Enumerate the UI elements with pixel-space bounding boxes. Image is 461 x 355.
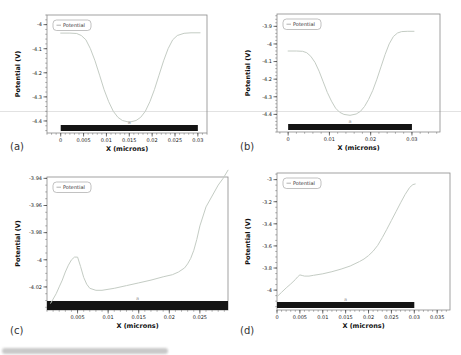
y-tick-label: -4.2	[32, 70, 42, 76]
electrode-bar	[277, 302, 414, 308]
chart-panel-b: 00.010.020.03-3.9-4-4.1-4.2-4.3-4.4aPote…	[230, 0, 461, 160]
electrode-bar	[61, 125, 198, 131]
y-tick-label: -4.2	[262, 76, 272, 82]
legend-label: Potential	[63, 22, 85, 28]
y-tick-label: -3.9	[262, 23, 272, 29]
x-axis-title: X (microns)	[106, 145, 148, 153]
y-tick-label: -4.3	[262, 94, 272, 100]
y-tick-label: -4.1	[262, 58, 272, 64]
x-tick-label: 0.005	[70, 314, 84, 320]
x-tick-label: 0.015	[338, 314, 352, 320]
y-tick-label: -4.02	[29, 284, 42, 290]
region-marker-label: a	[349, 118, 352, 124]
y-axis-title: Potential (V)	[244, 50, 252, 97]
chart-a-plot: 00.0050.010.0150.020.0250.03-4-4.1-4.2-4…	[0, 0, 230, 160]
legend: Potential	[283, 19, 321, 30]
x-tick-label: 0	[275, 314, 278, 320]
chart-d-plot: 00.0050.010.0150.020.0250.030.035-3-3.2-…	[230, 160, 461, 345]
x-tick-label: 0.02	[363, 314, 374, 320]
x-tick-label: 0	[287, 136, 290, 142]
potential-curve	[288, 31, 414, 115]
y-tick-label: -3.94	[29, 175, 42, 181]
x-tick-label: 0.03	[192, 137, 203, 143]
region-marker-label: a	[136, 295, 139, 301]
legend: Potential	[53, 182, 91, 193]
x-tick-label: 0.01	[317, 314, 328, 320]
panel-label-a: (a)	[10, 141, 24, 152]
region-marker-label: a	[128, 119, 131, 125]
x-tick-label: 0.035	[430, 314, 444, 320]
electrode-bar	[47, 301, 228, 310]
chart-panel-c: 0.0050.010.0150.020.025-3.94-3.96-3.98-4…	[0, 160, 230, 345]
x-tick-label: 0.02	[164, 314, 175, 320]
y-tick-label: -4	[37, 257, 42, 263]
x-axis-title: X (microns)	[342, 322, 384, 330]
y-axis-title: Potential (V)	[244, 218, 252, 265]
y-tick-label: -4.3	[32, 94, 42, 100]
legend: Potential	[283, 178, 321, 189]
potential-curve	[61, 33, 200, 122]
y-tick-label: -3.8	[262, 265, 272, 271]
legend-label: Potential	[293, 21, 315, 27]
plot-border	[277, 173, 450, 310]
y-axis-title: Potential (V)	[14, 220, 22, 267]
chart-panel-a: 00.0050.010.0150.020.0250.03-4-4.1-4.2-4…	[0, 0, 230, 160]
x-tick-label: 0.025	[384, 314, 398, 320]
x-tick-label: 0.01	[101, 137, 112, 143]
x-tick-label: 0.005	[76, 137, 90, 143]
y-tick-label: -4	[37, 21, 42, 27]
y-axis-title: Potential (V)	[14, 51, 22, 98]
panel-label-c: (c)	[10, 325, 23, 336]
cropped-caption-artifact	[2, 348, 168, 354]
x-tick-label: 0.02	[365, 136, 376, 142]
x-tick-label: 0	[59, 137, 62, 143]
y-tick-label: -3.96	[29, 202, 42, 208]
y-tick-label: -4	[267, 41, 272, 47]
x-tick-label: 0.03	[406, 136, 417, 142]
x-tick-label: 0.015	[132, 314, 146, 320]
x-tick-label: 0.01	[103, 314, 114, 320]
figure-four-potential-plots: 00.0050.010.0150.020.0250.03-4-4.1-4.2-4…	[0, 0, 461, 355]
legend: Potential	[53, 20, 91, 31]
x-axis-title: X (microns)	[337, 144, 379, 152]
y-tick-label: -3.98	[29, 229, 42, 235]
legend-label: Potential	[63, 184, 85, 190]
chart-c-plot: 0.0050.010.0150.020.025-3.94-3.96-3.98-4…	[0, 160, 230, 345]
y-tick-label: -3.6	[262, 243, 272, 249]
x-tick-label: 0.015	[122, 137, 136, 143]
y-tick-label: -4	[267, 287, 272, 293]
x-tick-label: 0.03	[409, 314, 420, 320]
plot-border	[277, 14, 440, 132]
legend-label: Potential	[293, 180, 315, 186]
potential-curve	[277, 184, 415, 297]
y-tick-label: -4.4	[262, 111, 272, 117]
region-marker-label: a	[344, 296, 347, 302]
x-tick-label: 0.01	[324, 136, 335, 142]
x-tick-label: 0.025	[168, 137, 182, 143]
y-tick-label: -4.1	[32, 46, 42, 52]
chart-panel-d: 00.0050.010.0150.020.0250.030.035-3-3.2-…	[230, 160, 461, 345]
electrode-bar	[288, 124, 412, 130]
x-tick-label: 0.02	[147, 137, 158, 143]
panel-label-d: (d)	[240, 325, 254, 336]
y-tick-label: -3.2	[262, 199, 272, 205]
panel-label-b: (b)	[240, 141, 254, 152]
y-tick-label: -3.4	[262, 221, 272, 227]
x-axis-title: X (microns)	[116, 322, 158, 330]
x-tick-label: 0.025	[193, 314, 207, 320]
plot-border	[47, 177, 228, 310]
y-tick-label: -3	[267, 176, 272, 182]
y-tick-label: -4.4	[32, 118, 42, 124]
x-tick-label: 0.005	[293, 314, 307, 320]
chart-b-plot: 00.010.020.03-3.9-4-4.1-4.2-4.3-4.4aPote…	[230, 0, 461, 160]
